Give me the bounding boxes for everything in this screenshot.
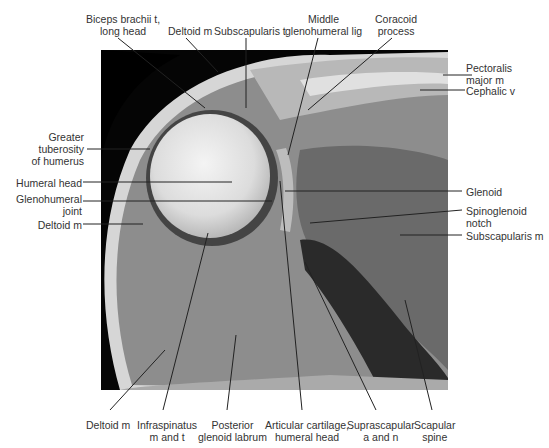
label-coracoid-process: Coracoid process bbox=[375, 13, 417, 37]
label-glenohumeral-joint: Glenohumeral joint bbox=[16, 193, 82, 217]
label-deltoid-top: Deltoid m bbox=[168, 25, 212, 37]
label-suprascapular-a-n: Suprascapular a and n bbox=[347, 419, 415, 443]
label-subscapularis-tendon: Subscapularis t bbox=[214, 25, 286, 37]
label-subscapularis-muscle: Subscapularis m bbox=[466, 230, 544, 242]
label-scapular-spine: Scapular spine bbox=[414, 419, 455, 443]
label-glenoid: Glenoid bbox=[466, 186, 502, 198]
label-posterior-glenoid-labrum: Posterior glenoid labrum bbox=[198, 419, 267, 443]
label-cephalic-vein: Cephalic v bbox=[466, 85, 515, 97]
label-spinoglenoid-notch: Spinoglenoid notch bbox=[466, 205, 527, 229]
label-greater-tuberosity: Greater tuberosity of humerus bbox=[31, 131, 84, 167]
label-articular-cartilage: Articular cartilage, humeral head bbox=[265, 419, 349, 443]
label-pectoralis-major: Pectoralis major m bbox=[466, 62, 512, 86]
label-humeral-head: Humeral head bbox=[16, 177, 82, 189]
label-deltoid-left: Deltoid m bbox=[38, 219, 82, 231]
label-middle-glenohumeral-lig: Middle glenohumeral lig bbox=[285, 13, 362, 37]
label-biceps-brachii-tendon: Biceps brachii t, long head bbox=[86, 13, 160, 37]
label-deltoid-bottom: Deltoid m bbox=[86, 419, 130, 431]
label-infraspinatus: Infraspinatus m and t bbox=[137, 419, 197, 443]
